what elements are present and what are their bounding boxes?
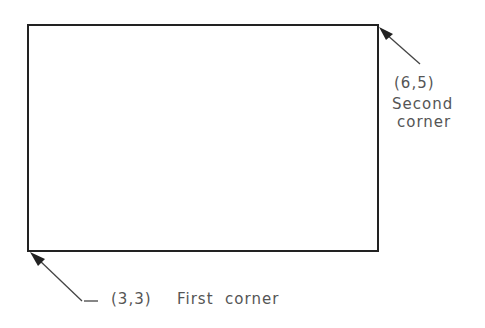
second-corner-arrow-icon [379,27,420,64]
second-corner-label-line2: corner [397,113,451,131]
diagram-canvas [0,0,485,328]
first-corner-label: First corner [177,290,279,308]
second-corner-coords: (6,5) [394,74,435,92]
rectangle [28,25,378,251]
second-corner-label-line1: Second [392,95,453,113]
first-corner-coords: (3,3) [111,290,152,308]
first-corner-arrow-icon [30,252,98,301]
